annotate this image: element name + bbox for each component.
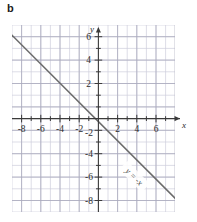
y-tick-label: 2 — [86, 79, 91, 89]
y-tick-label: -4 — [85, 149, 93, 159]
x-tick-label: -8 — [18, 124, 26, 134]
x-axis-arrow-icon — [175, 116, 181, 121]
x-tick-label: 2 — [115, 124, 120, 134]
x-axis-label: x — [181, 120, 186, 130]
figure-container: b — [0, 0, 197, 222]
y-tick-label: -2 — [85, 128, 93, 138]
x-tick-label: -2 — [75, 124, 83, 134]
y-axis-label: y — [89, 24, 94, 34]
x-tick-label: 4 — [134, 124, 139, 134]
coordinate-plane-plot: -8 -6 -4 -2 2 4 6 x — [0, 0, 197, 222]
y-tick-label: -8 — [85, 196, 93, 206]
x-tick-label: 6 — [154, 124, 159, 134]
x-tick-label: -4 — [56, 124, 64, 134]
y-tick-label: 4 — [86, 55, 91, 65]
y-tick-label: -6 — [85, 172, 93, 182]
x-tick-label: -6 — [37, 124, 45, 134]
